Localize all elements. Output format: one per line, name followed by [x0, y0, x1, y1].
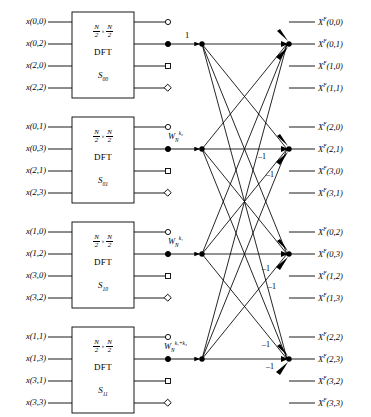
block-id-label: S00 [72, 70, 134, 82]
output-index: (1,1) [326, 83, 342, 93]
output-index: (1,3) [326, 293, 342, 303]
twiddle-factor-label: WNk₂ [168, 130, 183, 143]
output-label: XF(0,2) [318, 226, 343, 237]
input-lines [48, 22, 72, 403]
butterfly-crossbar [202, 44, 287, 359]
size-denominator: 2 [93, 347, 100, 354]
output-index: (1,0) [326, 61, 342, 71]
output-index: (2,3) [326, 354, 342, 364]
minus-one-label: –1 [258, 152, 266, 161]
size-denominator: 2 [106, 137, 113, 144]
flow-diagram-canvas [0, 0, 371, 417]
marker-circle [165, 334, 170, 339]
input-label: x(0,3) [4, 143, 46, 153]
output-label: XF(3,1) [318, 187, 343, 198]
output-lines [289, 22, 315, 403]
dft-size-label: N2×N2 [72, 234, 134, 249]
output-label: XF(0,0) [318, 16, 343, 27]
output-index: (0,1) [326, 39, 342, 49]
output-index: (1,2) [326, 271, 342, 281]
marker-diamond [164, 84, 171, 91]
output-label: XF(1,3) [318, 292, 343, 303]
dft-size-label: N2×N2 [72, 129, 134, 144]
size-denominator: 2 [93, 137, 100, 144]
block-output-stubs [134, 22, 166, 403]
block-id-label: S01 [72, 175, 134, 187]
output-index: (3,2) [326, 376, 342, 386]
twiddle-sub: N [175, 242, 179, 248]
input-label: x(3,3) [4, 397, 46, 407]
minus-one-label: –1 [268, 282, 276, 291]
output-index: (0,3) [326, 249, 342, 259]
output-index: (2,2) [326, 332, 342, 342]
input-label: x(1,1) [4, 331, 46, 341]
size-denominator: 2 [106, 242, 113, 249]
marker-diamond [164, 189, 171, 196]
output-index: (0,2) [326, 227, 342, 237]
butterfly-source-nodes [199, 41, 204, 361]
output-label: XF(0,3) [318, 248, 343, 259]
output-label: XF(3,2) [318, 375, 343, 386]
marker-square [166, 169, 171, 174]
input-label: x(0,1) [4, 121, 46, 131]
output-index: (3,0) [326, 166, 342, 176]
twiddle-factor-label: WNk₁ [168, 235, 183, 248]
marker-dot [165, 41, 170, 46]
twiddle-sub: N [175, 137, 179, 143]
marker-diamond [164, 294, 171, 301]
output-index: (2,0) [326, 122, 342, 132]
block-id-label: S11 [72, 385, 134, 397]
output-index: (0,0) [326, 17, 342, 27]
output-index: (2,1) [326, 144, 342, 154]
dft-word-label: DFT [72, 152, 134, 162]
block-id-sub: 00 [102, 76, 108, 82]
marker-circle [165, 19, 170, 24]
dft-word-label: DFT [72, 362, 134, 372]
dft-word-label: DFT [72, 257, 134, 267]
minus-one-label: –1 [262, 264, 270, 273]
output-label: XF(2,3) [318, 353, 343, 364]
input-label: x(2,2) [4, 82, 46, 92]
block-id-sub: 01 [102, 181, 108, 187]
input-label: x(0,0) [4, 16, 46, 26]
input-label: x(3,2) [4, 292, 46, 302]
input-label: x(1,3) [4, 353, 46, 363]
twiddle-sup: k₁+k₂ [175, 340, 187, 346]
block-id-label: S10 [72, 280, 134, 292]
minus-one-label: –1 [266, 170, 274, 179]
input-label: x(2,3) [4, 187, 46, 197]
output-label: XF(2,1) [318, 143, 343, 154]
twiddle-lines [170, 44, 200, 359]
input-label: x(1,0) [4, 226, 46, 236]
unity-coefficient-label: 1 [185, 30, 189, 40]
marker-square [166, 64, 171, 69]
output-label: XF(1,1) [318, 82, 343, 93]
marker-dot [165, 251, 170, 256]
marker-circle [165, 124, 170, 129]
butterfly-arrowheads [276, 29, 288, 375]
output-label: XF(1,0) [318, 60, 343, 71]
output-index: (3,1) [326, 188, 342, 198]
marker-circle [165, 229, 170, 234]
output-label: XF(3,3) [318, 397, 343, 408]
output-label: XF(0,1) [318, 38, 343, 49]
marker-dot [165, 146, 170, 151]
block-id-sub: 11 [103, 391, 108, 397]
block-id-sub: 10 [102, 286, 108, 292]
input-label: x(2,0) [4, 60, 46, 70]
minus-one-label: –1 [262, 340, 270, 349]
marker-diamond [164, 399, 171, 406]
input-label: x(3,1) [4, 375, 46, 385]
twiddle-sub: N [171, 347, 175, 353]
output-label: XF(2,0) [318, 121, 343, 132]
output-label: XF(3,0) [318, 165, 343, 176]
marker-square [166, 379, 171, 384]
twiddle-sup: k₂ [179, 130, 183, 136]
input-label: x(3,0) [4, 270, 46, 280]
output-index: (3,3) [326, 398, 342, 408]
size-denominator: 2 [106, 347, 113, 354]
input-label: x(2,1) [4, 165, 46, 175]
size-denominator: 2 [106, 32, 113, 39]
butterfly-sink-nodes [286, 41, 291, 361]
size-denominator: 2 [93, 242, 100, 249]
